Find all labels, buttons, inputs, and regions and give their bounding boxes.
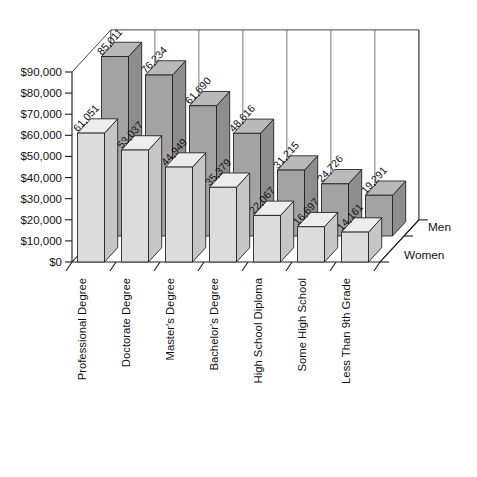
y-tick-label: $0 — [49, 256, 62, 268]
category-label-2: Master's Degree — [164, 278, 176, 361]
y-tick-label: $70,000 — [20, 108, 62, 120]
chart-container: $0$10,000$20,000$30,000$40,000$50,000$60… — [0, 0, 477, 477]
bar-women-2: 44,949 — [158, 136, 205, 262]
category-label-6: Less Than 9th Grade — [340, 278, 352, 384]
category-label-5: Some High School — [296, 278, 308, 372]
category-labels: Professional DegreeDoctorate DegreeMaste… — [76, 277, 352, 384]
category-label-1: Doctorate Degree — [120, 278, 132, 367]
bar-women-0: 61,051 — [70, 102, 117, 262]
category-label-0: Professional Degree — [76, 278, 88, 380]
y-tick-label: $90,000 — [20, 66, 62, 78]
y-axis: $0$10,000$20,000$30,000$40,000$50,000$60… — [20, 66, 72, 268]
legend-label-men: Men — [428, 220, 451, 234]
y-tick-label: $40,000 — [20, 172, 62, 184]
legend-label-women: Women — [404, 248, 444, 262]
bar-chart-3d: $0$10,000$20,000$30,000$40,000$50,000$60… — [0, 0, 477, 477]
category-label-3: Bachelor's Degree — [208, 278, 220, 371]
y-tick-label: $80,000 — [20, 87, 62, 99]
y-tick-label: $20,000 — [20, 214, 62, 226]
y-tick-label: $50,000 — [20, 150, 62, 162]
y-tick-label: $30,000 — [20, 193, 62, 205]
y-tick-label: $10,000 — [20, 235, 62, 247]
y-tick-label: $60,000 — [20, 129, 62, 141]
bar-women-1: 53,037 — [114, 119, 161, 262]
category-label-4: High School Diploma — [252, 277, 264, 383]
